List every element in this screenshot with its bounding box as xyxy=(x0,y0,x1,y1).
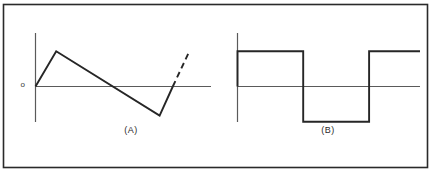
origin-label: o xyxy=(16,80,30,89)
figure-container: o (A) (B) xyxy=(0,0,435,176)
waveform-figure xyxy=(0,0,435,176)
panel-b-label: (B) xyxy=(310,125,346,135)
panel-a-label: (A) xyxy=(113,125,149,135)
